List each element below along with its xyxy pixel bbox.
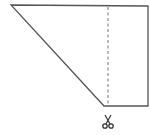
- scissors-icon: [103, 115, 113, 128]
- diagram-canvas: [0, 0, 150, 135]
- trapezoid-shape: [11, 5, 148, 106]
